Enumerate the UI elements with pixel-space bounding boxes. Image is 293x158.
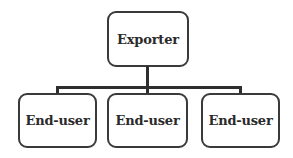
end-user-node-1: End-user bbox=[18, 93, 97, 148]
end-user-label: End-user bbox=[25, 113, 89, 128]
exporter-node: Exporter bbox=[107, 11, 189, 67]
end-user-label: End-user bbox=[208, 113, 272, 128]
exporter-label: Exporter bbox=[117, 32, 179, 47]
end-user-node-3: End-user bbox=[201, 93, 280, 148]
end-user-label: End-user bbox=[115, 113, 179, 128]
end-user-node-2: End-user bbox=[107, 93, 188, 148]
horizontal-connector bbox=[56, 86, 242, 89]
